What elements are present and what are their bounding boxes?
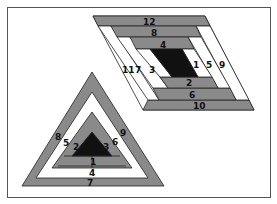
label-tri-9: 9	[120, 128, 126, 138]
quilt-diagram: 12 8 4 11 7 3 1 5 9 2 6 10 8 5 2 3 6 9 1…	[0, 0, 277, 204]
label-1: 1	[193, 60, 199, 70]
label-tri-8: 8	[55, 132, 61, 142]
label-10: 10	[193, 101, 206, 111]
label-tri-6: 6	[112, 137, 118, 147]
label-11: 11	[122, 65, 135, 75]
label-12: 12	[143, 17, 156, 27]
label-tri-1: 1	[90, 157, 96, 167]
label-tri-5: 5	[63, 138, 69, 148]
label-tri-2: 2	[73, 142, 79, 152]
parallelogram-block	[93, 16, 254, 110]
label-4: 4	[160, 40, 166, 50]
label-8: 8	[151, 28, 157, 38]
label-7: 7	[135, 65, 141, 75]
label-2: 2	[186, 78, 192, 88]
label-5: 5	[206, 60, 212, 70]
label-tri-4: 4	[89, 168, 95, 178]
label-3: 3	[149, 65, 155, 75]
label-9: 9	[219, 60, 225, 70]
label-tri-3: 3	[103, 142, 109, 152]
label-tri-7: 7	[87, 178, 93, 188]
label-6: 6	[189, 90, 195, 100]
